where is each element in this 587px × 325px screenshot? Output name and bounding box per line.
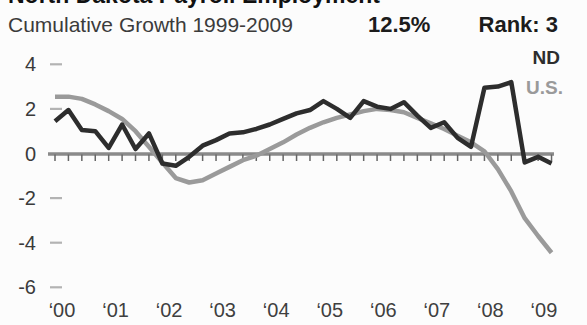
x-tick-label: ‘09 <box>519 298 569 322</box>
y-tick-label: 4 <box>0 52 36 76</box>
y-tick-label: -6 <box>0 275 36 299</box>
x-tick-label: ‘03 <box>198 298 248 322</box>
x-tick-label: ‘07 <box>412 298 462 322</box>
employment-chart-page: North Dakota Payroll Employment Cumulati… <box>0 0 587 325</box>
y-tick-label: -2 <box>0 186 36 210</box>
x-tick-label: ‘06 <box>358 298 408 322</box>
line-chart-canvas <box>0 0 587 325</box>
y-tick-label: -4 <box>0 231 36 255</box>
x-tick-label: ‘01 <box>91 298 141 322</box>
x-tick-label: ‘04 <box>251 298 301 322</box>
x-tick-label: ‘02 <box>144 298 194 322</box>
x-tick-label: ‘00 <box>37 298 87 322</box>
y-tick-label: 2 <box>0 97 36 121</box>
x-tick-label: ‘05 <box>305 298 355 322</box>
x-tick-label: ‘08 <box>465 298 515 322</box>
y-tick-label: 0 <box>0 142 36 166</box>
